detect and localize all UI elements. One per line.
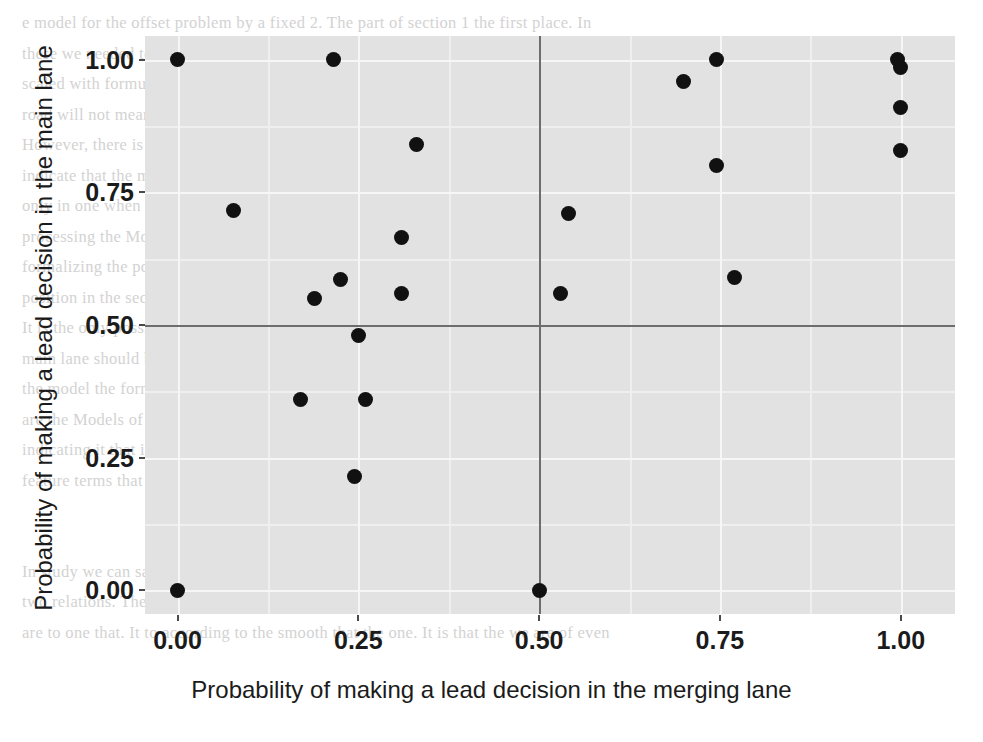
grid-line-horizontal-minor [145, 391, 955, 393]
data-point [532, 583, 547, 598]
data-point [394, 230, 409, 245]
data-point [170, 583, 185, 598]
grid-line-horizontal-major [145, 60, 955, 62]
grid-line-horizontal-minor [145, 524, 955, 526]
x-axis-tick-label: 0.25 [298, 626, 418, 655]
data-point [893, 60, 908, 75]
data-point [409, 137, 424, 152]
y-axis-tick-mark [139, 59, 145, 61]
grid-line-horizontal-major [145, 192, 955, 194]
x-axis-tick-mark [538, 615, 540, 621]
grid-line-horizontal-minor [145, 126, 955, 128]
data-point [727, 270, 742, 285]
y-axis-tick-mark [139, 457, 145, 459]
data-point [358, 392, 373, 407]
scatter-plot-figure: 0.000.250.500.751.00 0.000.250.500.751.0… [0, 0, 983, 742]
data-point [394, 286, 409, 301]
data-point [333, 272, 348, 287]
data-point [170, 52, 185, 67]
reference-line-horizontal [145, 325, 955, 327]
x-axis-tick-mark [177, 615, 179, 621]
data-point [893, 143, 908, 158]
x-axis-tick-label: 1.00 [841, 626, 961, 655]
data-point [347, 469, 362, 484]
x-axis-label: Probability of making a lead decision in… [0, 676, 983, 704]
grid-line-horizontal-minor [145, 259, 955, 261]
x-axis-tick-mark [719, 615, 721, 621]
x-axis-tick-mark [900, 615, 902, 621]
plot-panel [145, 36, 955, 614]
y-axis-tick-mark [139, 324, 145, 326]
x-axis-tick-label: 0.50 [479, 626, 599, 655]
reference-line-vertical [539, 36, 541, 614]
data-point [893, 100, 908, 115]
y-axis-label: Probability of making a lead decision in… [30, 28, 58, 628]
y-axis-tick-mark [139, 589, 145, 591]
data-point [226, 203, 241, 218]
data-point [307, 291, 322, 306]
data-point [326, 52, 341, 67]
data-point [676, 74, 691, 89]
x-axis-tick-label: 0.75 [660, 626, 780, 655]
grid-line-horizontal-major [145, 590, 955, 592]
x-axis-tick-mark [357, 615, 359, 621]
data-point [561, 206, 576, 221]
grid-line-horizontal-major [145, 458, 955, 460]
data-point [553, 286, 568, 301]
y-axis-tick-mark [139, 191, 145, 193]
data-point [351, 328, 366, 343]
data-point [293, 392, 308, 407]
x-axis-tick-label: 0.00 [118, 626, 238, 655]
